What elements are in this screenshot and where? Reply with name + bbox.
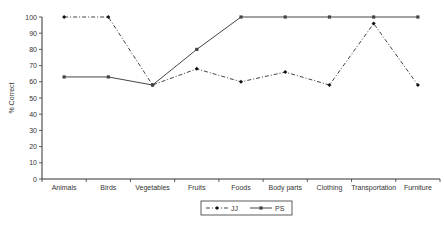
series-jj-line [64, 17, 418, 85]
square-marker-icon [372, 15, 375, 18]
x-tick-label: Foods [231, 184, 251, 191]
x-tick-label: Vegetables [135, 184, 170, 192]
x-tick-label: Body parts [268, 184, 302, 192]
y-tick-label: 100 [25, 14, 37, 21]
y-tick-label: 60 [29, 78, 37, 85]
x-tick-label: Clothing [317, 184, 343, 192]
series-ps-line [64, 17, 418, 85]
legend-label-ps: PS [275, 205, 285, 212]
line-chart: 0102030405060708090100 AnimalsBirdsVeget… [0, 0, 444, 225]
diamond-marker-icon [195, 67, 199, 71]
y-tick-label: 50 [29, 95, 37, 102]
square-marker-icon [151, 83, 154, 86]
diamond-marker-icon [327, 83, 331, 87]
y-axis: 0102030405060708090100 [25, 14, 42, 183]
x-axis: AnimalsBirdsVegetablesFruitsFoodsBody pa… [42, 179, 440, 192]
diamond-marker-icon [239, 80, 243, 84]
legend-label-jj: JJ [231, 205, 238, 212]
x-tick-label: Furniture [404, 184, 432, 191]
square-marker-icon [284, 15, 287, 18]
x-tick-label: Birds [100, 184, 116, 191]
legend: JJPS [201, 201, 292, 215]
diamond-marker-icon [62, 15, 66, 19]
y-axis-title: % Correct [8, 82, 15, 113]
square-marker-icon [259, 206, 262, 209]
y-tick-label: 10 [29, 159, 37, 166]
x-tick-label: Animals [52, 184, 77, 191]
square-marker-icon [416, 15, 419, 18]
y-tick-label: 20 [29, 143, 37, 150]
square-marker-icon [63, 75, 66, 78]
diamond-marker-icon [283, 70, 287, 74]
square-marker-icon [239, 15, 242, 18]
y-tick-label: 90 [29, 30, 37, 37]
x-tick-label: Transportation [351, 184, 396, 192]
square-marker-icon [328, 15, 331, 18]
y-tick-label: 80 [29, 46, 37, 53]
x-tick-label: Fruits [188, 184, 206, 191]
series-lines [62, 15, 420, 87]
square-marker-icon [107, 75, 110, 78]
y-tick-label: 0 [33, 176, 37, 183]
y-tick-label: 40 [29, 111, 37, 118]
y-tick-label: 70 [29, 62, 37, 69]
y-tick-label: 30 [29, 127, 37, 134]
square-marker-icon [195, 48, 198, 51]
